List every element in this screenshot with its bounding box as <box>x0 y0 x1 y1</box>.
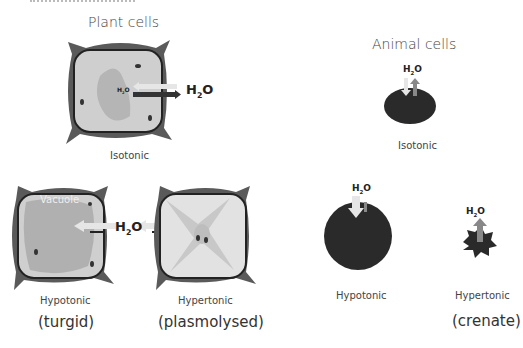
animal-hypotonic-label: Hypotonic <box>336 290 387 301</box>
plasmolysed-label: (plasmolysed) <box>158 313 264 331</box>
animal-cell-hypertonic <box>455 216 505 266</box>
water-exchange-arrows-icon <box>133 82 193 102</box>
h2o-label: H2O <box>186 82 213 100</box>
h2o-label-animal-hypo: H2O <box>352 183 371 195</box>
animal-isotonic-label: Isotonic <box>398 140 437 151</box>
plant-hypotonic-label: Hypotonic <box>40 295 91 306</box>
animal-cell-hypotonic <box>322 196 402 276</box>
plant-hypertonic-label: Hypertonic <box>178 295 233 306</box>
h2o-small-label: H2O <box>117 86 130 95</box>
plant-cell-hypertonic <box>146 180 266 292</box>
animal-cells-title: Animal cells <box>372 36 456 52</box>
crenate-label: (crenate) <box>452 312 521 330</box>
animal-hypertonic-label: Hypertonic <box>455 290 510 301</box>
h2o-label-animal-iso: H2O <box>403 64 422 76</box>
h2o-label-middle: H2O <box>115 219 142 237</box>
plant-cells-title: Plant cells <box>88 14 159 30</box>
cropped-header-text <box>30 0 135 2</box>
turgid-label: (turgid) <box>38 313 94 331</box>
animal-cell-isotonic <box>380 76 440 126</box>
plant-isotonic-label: Isotonic <box>110 150 149 161</box>
vacuole-label: Vacuole <box>40 194 79 205</box>
